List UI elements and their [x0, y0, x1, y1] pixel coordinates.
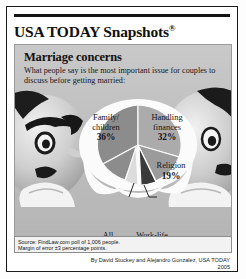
pie-label-finances-line1: Handling: [143, 113, 191, 123]
chart-subtitle: What people say is the most important is…: [24, 66, 220, 85]
credit-line: By David Stuckey and Alejandro Gonzalez,…: [14, 257, 230, 271]
source-note: Source: FindLaw.com poll of 1,006 people…: [14, 236, 232, 253]
pie-label-religion-line1: Religion: [149, 161, 193, 171]
pie-label-finances: Handling finances 32%: [143, 113, 191, 143]
pie-label-family-line2: children: [83, 123, 129, 133]
snapshot-graphic: USA TODAY Snapshots®: [0, 0, 246, 279]
pie-label-family-line1: Family/: [83, 113, 129, 123]
pie-label-finances-line2: finances: [143, 123, 191, 133]
pie-value-religion: 19%: [149, 172, 193, 182]
pie-value-family: 36%: [83, 133, 129, 143]
masthead-title: USA TODAY Snapshots®: [14, 18, 230, 38]
masthead-title-text: USA TODAY Snapshots: [14, 23, 169, 40]
source-line-2: Margin of error ±3 percentage points.: [18, 245, 228, 251]
pie-value-finances: 32%: [143, 133, 191, 143]
credit-authors: By David Stuckey and Alejandro Gonzalez,…: [14, 257, 230, 264]
pie-label-family: Family/ children 36%: [83, 113, 129, 143]
masthead-rule: [14, 14, 230, 17]
credit-year: 2005: [14, 264, 230, 271]
registered-mark-icon: ®: [169, 23, 176, 33]
pie-label-religion: Religion 19%: [149, 161, 193, 181]
illustration-panel: Marriage concerns What people say is the…: [14, 44, 232, 252]
chart-title: Marriage concerns: [24, 50, 224, 65]
